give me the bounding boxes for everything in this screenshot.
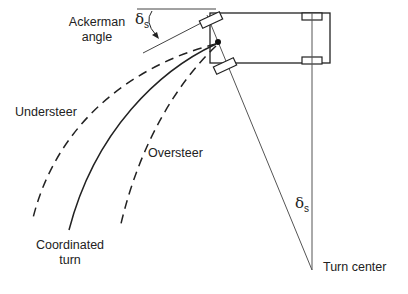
ackerman-angle-arrow-icon [149, 11, 156, 35]
delta-s-label-center: δs [295, 196, 309, 212]
front-axle-line [207, 15, 312, 270]
understeer-label: Understeer [15, 105, 77, 120]
ackerman-angle-label: Ackerman angle [62, 15, 132, 45]
delta-subscript: s [144, 19, 149, 30]
arrowhead-icon [152, 32, 159, 39]
ackerman-label-line1: Ackerman [62, 15, 132, 30]
delta-s-label-top: δs [135, 12, 149, 28]
understeer-path [33, 44, 216, 218]
delta-subscript-2: s [304, 203, 309, 214]
delta-symbol-2: δ [295, 194, 304, 212]
coordinated-turn-path [69, 44, 216, 230]
delta-symbol: δ [135, 10, 144, 28]
coordinated-turn-label: Coordinated turn [30, 238, 110, 268]
coordinated-label-line2: turn [30, 253, 110, 268]
ackerman-wheel-heading-line [143, 21, 205, 53]
turn-center-label: Turn center [323, 260, 386, 275]
ackerman-label-line2: angle [62, 30, 132, 45]
coordinated-label-line1: Coordinated [30, 238, 110, 253]
oversteer-label: Oversteer [148, 146, 203, 161]
front-wheel-bottom [213, 58, 236, 75]
